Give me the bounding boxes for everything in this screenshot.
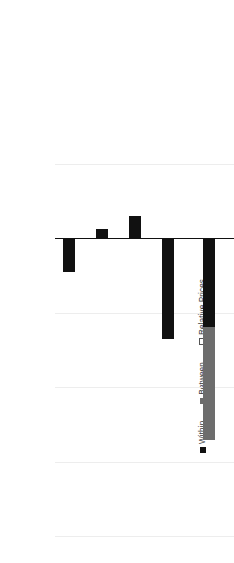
bar-segment-within — [96, 229, 108, 239]
bar-group — [203, 165, 215, 537]
chart-canvas: 20.0%15.0%10.0%5.0%0.0%–5.0% Agriculture… — [0, 0, 234, 563]
bar-group — [129, 165, 141, 537]
figure: Within Between Relative Prices — [0, 0, 234, 563]
bar-group — [63, 165, 75, 537]
rotated-figure-wrapper: Within Between Relative Prices — [0, 0, 234, 563]
bar-segment-between — [203, 327, 215, 440]
bar-segment-within — [63, 239, 75, 272]
bar-group — [96, 165, 108, 537]
bar-segment-within — [203, 239, 215, 327]
plot-area — [55, 165, 234, 537]
bar-segment-within — [129, 216, 141, 240]
bar-segment-within — [162, 239, 174, 339]
bar-group — [162, 165, 174, 537]
